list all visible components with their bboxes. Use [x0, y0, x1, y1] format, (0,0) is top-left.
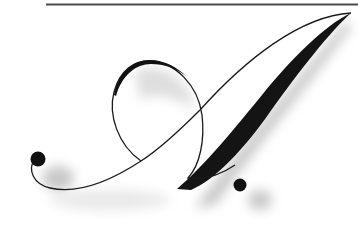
calligraphic-letter-a-artwork	[0, 0, 358, 228]
main-diagonal-stroke	[177, 13, 351, 190]
dot-bottom-right	[234, 179, 247, 192]
ball-terminal-left	[31, 152, 46, 167]
horizontal-rule	[46, 4, 358, 6]
